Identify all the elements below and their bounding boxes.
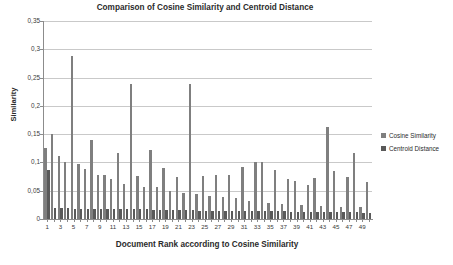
bar-group xyxy=(77,21,84,219)
bar-centroid-distance xyxy=(297,212,299,219)
x-tick-label: 47 xyxy=(343,223,355,230)
x-tick-mark xyxy=(329,219,330,222)
bar-group xyxy=(215,21,222,219)
bar-group xyxy=(300,21,307,219)
bar-group xyxy=(260,21,267,219)
x-tick-mark xyxy=(192,219,193,222)
x-tick-mark xyxy=(139,219,140,222)
x-tick-label: 9 xyxy=(94,223,106,230)
bar-centroid-distance xyxy=(205,211,207,219)
bar-cosine-similarity xyxy=(326,127,328,219)
x-tick-mark xyxy=(67,219,68,222)
x-tick-mark xyxy=(336,219,337,222)
x-tick-mark xyxy=(106,219,107,222)
legend-item[interactable]: Cosine Similarity xyxy=(381,131,439,140)
x-tick-mark xyxy=(178,219,179,222)
bar-cosine-similarity xyxy=(353,153,355,219)
bar-cosine-similarity xyxy=(189,84,191,219)
bar-centroid-distance xyxy=(257,211,259,219)
bar-centroid-distance xyxy=(192,210,194,219)
y-tick-label: 0,25 xyxy=(16,74,40,81)
x-tick-mark xyxy=(126,219,127,222)
x-tick-mark xyxy=(211,219,212,222)
bar-group xyxy=(339,21,346,219)
x-tick-mark xyxy=(283,219,284,222)
bar-centroid-distance xyxy=(113,209,115,219)
bar-group xyxy=(156,21,163,219)
x-tick-mark xyxy=(87,219,88,222)
x-tick-label: 41 xyxy=(304,223,316,230)
chart-title: Comparison of Cosine Similarity and Cent… xyxy=(60,3,350,12)
bar-group xyxy=(313,21,320,219)
x-tick-mark xyxy=(205,219,206,222)
bar-group xyxy=(359,21,366,219)
bar-centroid-distance xyxy=(290,212,292,219)
bar-centroid-distance xyxy=(100,209,102,219)
bar-centroid-distance xyxy=(198,211,200,219)
plot-area xyxy=(44,21,372,219)
x-tick-label: 3 xyxy=(54,223,66,230)
legend-item[interactable]: Centroid Distance xyxy=(381,144,439,153)
bar-group xyxy=(90,21,97,219)
x-axis-title: Document Rank according to Cosine Simila… xyxy=(42,240,372,249)
bar-group xyxy=(169,21,176,219)
x-tick-mark xyxy=(146,219,147,222)
x-tick-mark xyxy=(74,219,75,222)
x-tick-mark xyxy=(47,219,48,222)
bar-group xyxy=(96,21,103,219)
x-tick-mark xyxy=(244,219,245,222)
bar-group xyxy=(201,21,208,219)
y-tick-label: 0 xyxy=(16,215,40,222)
bar-centroid-distance xyxy=(133,209,135,219)
bar-group xyxy=(228,21,235,219)
legend-label: Cosine Similarity xyxy=(389,132,436,139)
bar-cosine-similarity xyxy=(90,140,92,219)
bar-group xyxy=(241,21,248,219)
x-tick-label: 1 xyxy=(41,223,53,230)
x-tick-mark xyxy=(264,219,265,222)
bar-centroid-distance xyxy=(47,170,49,219)
bar-group xyxy=(188,21,195,219)
x-tick-label: 21 xyxy=(172,223,184,230)
x-tick-mark xyxy=(93,219,94,222)
bar-centroid-distance xyxy=(185,210,187,219)
bar-cosine-similarity xyxy=(51,134,53,219)
bar-centroid-distance xyxy=(211,211,213,219)
bar-group xyxy=(333,21,340,219)
bar-centroid-distance xyxy=(119,209,121,219)
x-tick-mark xyxy=(369,219,370,222)
bar-group xyxy=(352,21,359,219)
bar-group xyxy=(365,21,372,219)
bar-centroid-distance xyxy=(172,210,174,219)
x-tick-mark xyxy=(290,219,291,222)
bar-group xyxy=(274,21,281,219)
bar-group xyxy=(64,21,71,219)
bar-group xyxy=(320,21,327,219)
x-tick-mark xyxy=(119,219,120,222)
bar-cosine-similarity xyxy=(130,84,132,219)
legend-label: Centroid Distance xyxy=(389,145,439,152)
bar-centroid-distance xyxy=(238,211,240,219)
bar-centroid-distance xyxy=(178,210,180,219)
x-tick-label: 13 xyxy=(120,223,132,230)
x-tick-mark xyxy=(323,219,324,222)
bar-centroid-distance xyxy=(303,212,305,219)
bar-centroid-distance xyxy=(277,211,279,219)
bar-centroid-distance xyxy=(152,210,154,219)
chart-container: Comparison of Cosine Similarity and Cent… xyxy=(0,0,453,265)
x-tick-mark xyxy=(310,219,311,222)
chart-legend: Cosine SimilarityCentroid Distance xyxy=(381,131,439,157)
x-tick-mark xyxy=(80,219,81,222)
bar-series-group xyxy=(44,21,372,219)
x-tick-mark xyxy=(218,219,219,222)
legend-swatch-icon xyxy=(381,133,386,138)
bar-group xyxy=(116,21,123,219)
bar-centroid-distance xyxy=(139,209,141,219)
bar-cosine-similarity xyxy=(71,56,73,219)
bar-centroid-distance xyxy=(60,208,62,219)
bar-centroid-distance xyxy=(93,209,95,219)
bar-centroid-distance xyxy=(342,212,344,219)
bar-group xyxy=(254,21,261,219)
bar-centroid-distance xyxy=(54,208,56,219)
bar-group xyxy=(70,21,77,219)
